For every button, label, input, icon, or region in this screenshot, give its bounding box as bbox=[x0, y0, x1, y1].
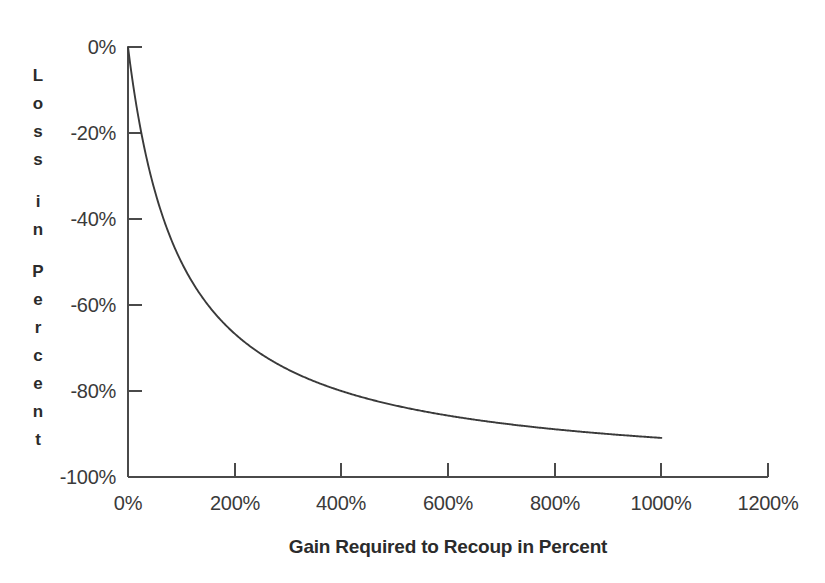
x-tick-label: 1000% bbox=[631, 492, 692, 515]
chart-container: LossinPercent 0% -20% -40% -60% -80% -10… bbox=[0, 0, 825, 583]
x-tick-label: 400% bbox=[316, 492, 366, 515]
y-tick-label: -100% bbox=[30, 466, 116, 489]
y-tick-label: -20% bbox=[40, 122, 116, 145]
x-tick-label: 0% bbox=[114, 492, 142, 515]
y-tick-label: -80% bbox=[40, 380, 116, 403]
y-tick-marks bbox=[128, 133, 142, 391]
y-axis-title-letter: P bbox=[16, 258, 60, 286]
y-axis-title-letter: s bbox=[16, 146, 60, 174]
x-tick-label: 800% bbox=[530, 492, 580, 515]
y-axis-title-gap bbox=[16, 174, 60, 188]
x-tick-marks bbox=[235, 463, 661, 477]
y-axis-title-letter: c bbox=[16, 342, 60, 370]
y-axis-title-letter: t bbox=[16, 426, 60, 454]
y-axis-title-letter: o bbox=[16, 90, 60, 118]
y-axis-title-gap bbox=[16, 244, 60, 258]
axes bbox=[128, 47, 768, 477]
x-tick-label: 200% bbox=[210, 492, 260, 515]
x-tick-label: 1200% bbox=[738, 492, 799, 515]
y-tick-label: -60% bbox=[40, 294, 116, 317]
y-axis-title-letter: L bbox=[16, 62, 60, 90]
y-axis-title-letter: r bbox=[16, 314, 60, 342]
y-tick-label: -40% bbox=[40, 208, 116, 231]
x-axis-title: Gain Required to Recoup in Percent bbox=[128, 536, 768, 558]
loss-recoup-curve bbox=[128, 47, 661, 438]
y-tick-label: 0% bbox=[40, 36, 116, 59]
x-tick-label: 600% bbox=[423, 492, 473, 515]
